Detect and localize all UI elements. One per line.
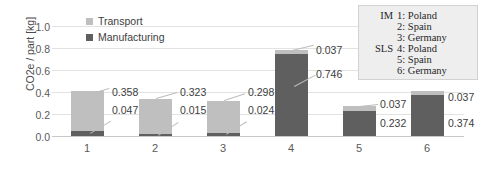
data-label-5-transport: 0.037 bbox=[380, 98, 406, 110]
x-tick-3: 3 bbox=[192, 142, 254, 154]
co2e-stacked-bar-chart: CO2e / part [kg] 1.0 0.8 0.6 0.4 0.2 0.0 bbox=[0, 0, 483, 170]
key-process-blank-5 bbox=[359, 54, 397, 65]
key-process-sls: SLS bbox=[359, 43, 397, 54]
key-process-blank-3 bbox=[359, 32, 397, 43]
data-label-4-transport: 0.037 bbox=[316, 44, 342, 56]
key-item-6: 6: Germany bbox=[397, 65, 477, 76]
y-tick-1-0: 1.0 bbox=[24, 22, 50, 32]
key-item-5: 5: Spain bbox=[397, 54, 477, 65]
x-tick-4: 4 bbox=[260, 142, 322, 154]
key-row-4: SLS 4: Poland bbox=[359, 43, 477, 54]
bar-1-transport-segment bbox=[71, 91, 104, 130]
key-process-blank-2 bbox=[359, 21, 397, 32]
y-tick-0-0: 0.0 bbox=[24, 132, 50, 142]
data-label-4-manufacturing: 0.746 bbox=[316, 68, 342, 80]
key-row-2: 2: Spain bbox=[359, 21, 477, 32]
data-label-2-manufacturing: 0.015 bbox=[180, 104, 206, 116]
legend-label-manufacturing: Manufacturing bbox=[98, 31, 165, 43]
y-axis-tick-labels: 1.0 0.8 0.6 0.4 0.2 0.0 bbox=[22, 0, 50, 170]
manufacturing-swatch-icon bbox=[86, 34, 93, 41]
key-item-1: 1: Poland bbox=[397, 10, 477, 21]
data-label-5-manufacturing: 0.232 bbox=[380, 117, 406, 129]
bar-3-manufacturing-segment bbox=[207, 133, 240, 136]
bar-slot-3 bbox=[192, 26, 254, 136]
bar-4-manufacturing-segment bbox=[275, 54, 308, 136]
key-row-1: IM 1: Poland bbox=[359, 10, 477, 21]
y-tick-0-8: 0.8 bbox=[24, 44, 50, 54]
x-tick-5: 5 bbox=[328, 142, 390, 154]
data-label-3-manufacturing: 0.024 bbox=[248, 104, 274, 116]
data-label-6-transport: 0.037 bbox=[448, 91, 474, 103]
key-item-3: 3: Germany bbox=[397, 32, 477, 43]
bar-5-manufacturing-segment bbox=[343, 111, 376, 137]
data-label-6-manufacturing: 0.374 bbox=[448, 117, 474, 129]
x-tick-1: 1 bbox=[56, 142, 118, 154]
data-label-3-transport: 0.298 bbox=[248, 86, 274, 98]
key-row-3: 3: Germany bbox=[359, 32, 477, 43]
key-row-6: 6: Germany bbox=[359, 65, 477, 76]
x-axis-line bbox=[52, 136, 464, 137]
key-row-5: 5: Spain bbox=[359, 54, 477, 65]
data-label-1-manufacturing: 0.047 bbox=[112, 104, 138, 116]
data-label-2-transport: 0.323 bbox=[180, 86, 206, 98]
bar-1-manufacturing-segment bbox=[71, 131, 104, 136]
legend-label-transport: Transport bbox=[98, 15, 143, 27]
bar-slot-4 bbox=[260, 26, 322, 136]
y-tick-0-6: 0.6 bbox=[24, 66, 50, 76]
legend-item-transport: Transport bbox=[86, 14, 165, 28]
key-item-2: 2: Spain bbox=[397, 21, 477, 32]
y-tick-0-2: 0.2 bbox=[24, 110, 50, 120]
x-tick-6: 6 bbox=[396, 142, 458, 154]
key-item-4: 4: Poland bbox=[397, 43, 477, 54]
data-label-1-transport: 0.358 bbox=[112, 86, 138, 98]
x-tick-2: 2 bbox=[124, 142, 186, 154]
legend-item-manufacturing: Manufacturing bbox=[86, 30, 165, 44]
category-key-box: IM 1: Poland 2: Spain 3: Germany SLS 4: … bbox=[358, 5, 478, 80]
series-legend: Transport Manufacturing bbox=[86, 14, 165, 46]
key-process-im: IM bbox=[359, 10, 397, 21]
y-tick-0-4: 0.4 bbox=[24, 88, 50, 98]
bar-2-manufacturing-segment bbox=[139, 134, 172, 136]
bar-6-manufacturing-segment bbox=[411, 95, 444, 136]
key-process-blank-6 bbox=[359, 65, 397, 76]
transport-swatch-icon bbox=[86, 18, 93, 25]
